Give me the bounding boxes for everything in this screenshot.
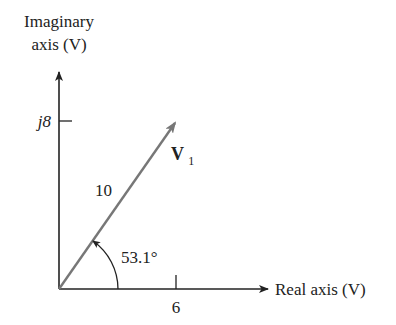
- vector-label: V 1: [171, 144, 194, 168]
- real-tick-label: 6: [172, 298, 181, 317]
- imag-axis-label-line1: Imaginary: [24, 12, 94, 31]
- angle-arc: [93, 241, 118, 289]
- imag-tick-label: j8: [36, 112, 52, 131]
- vector-label-subscript: 1: [188, 154, 194, 168]
- angle-label: 53.1°: [121, 248, 158, 267]
- phasor-diagram: Imaginary axis (V) j8 6 Real axis (V) 10…: [0, 0, 396, 325]
- real-axis-label: Real axis (V): [275, 280, 366, 299]
- vector-label-main: V: [171, 144, 184, 164]
- magnitude-label: 10: [95, 181, 112, 200]
- imag-axis-label-line2: axis (V): [31, 35, 86, 54]
- phasor-vector-v1: [59, 123, 175, 289]
